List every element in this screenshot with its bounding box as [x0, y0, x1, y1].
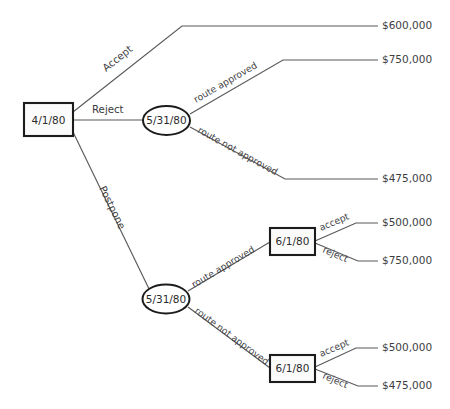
decision-tree-diagram: 4/1/80 5/31/80 5/31/80 6/1/80 6/1/80 Acc…	[0, 0, 450, 409]
edge-root-accept	[73, 26, 378, 112]
edge-label-upper-reject: reject	[321, 244, 350, 265]
payoff-postpone-not-approved-reject: $475,000	[382, 379, 432, 391]
node-chance-lower-label: 5/31/80	[146, 293, 186, 305]
payoff-reject-route-approved: $750,000	[382, 53, 432, 65]
edge-label-upper-route-not-approved: route not approved	[196, 124, 280, 177]
payoff-postpone-not-approved-accept: $500,000	[382, 341, 432, 353]
node-root-decision[interactable]: 4/1/80	[24, 103, 73, 136]
node-decision-lower[interactable]: 6/1/80	[270, 355, 315, 382]
edge-label-postpone-root: Postpone	[97, 184, 127, 231]
edge-label-lower-route-approved: route approved	[189, 243, 256, 289]
payoff-postpone-approved-reject: $750,000	[382, 254, 432, 266]
edge-label-lower-reject: reject	[321, 370, 350, 391]
node-chance-upper[interactable]: 5/31/80	[143, 106, 190, 135]
edge-label-upper-route-approved: route approved	[192, 59, 259, 104]
payoff-accept: $600,000	[382, 19, 432, 31]
edge-label-accept-root: Accept	[100, 43, 134, 73]
edge-label-lower-accept: accept	[317, 336, 350, 358]
node-decision-lower-label: 6/1/80	[276, 362, 310, 374]
edge-label-upper-accept: accept	[317, 210, 350, 232]
node-chance-lower[interactable]: 5/31/80	[143, 285, 190, 314]
edge-label-reject-root: Reject	[92, 104, 124, 115]
payoff-postpone-approved-accept: $500,000	[382, 216, 432, 228]
decision-tree-canvas: 4/1/80 5/31/80 5/31/80 6/1/80 6/1/80 Acc…	[0, 0, 450, 409]
payoff-reject-route-not-approved: $475,000	[382, 172, 432, 184]
node-decision-upper-label: 6/1/80	[276, 235, 310, 247]
node-decision-upper[interactable]: 6/1/80	[270, 228, 315, 255]
edge-label-lower-route-not-approved: route not approved	[193, 305, 272, 367]
node-chance-upper-label: 5/31/80	[146, 114, 186, 126]
node-root-decision-label: 4/1/80	[32, 114, 66, 126]
